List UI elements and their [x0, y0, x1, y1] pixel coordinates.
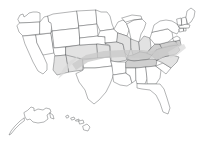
state-nebraska[interactable]	[80, 36, 106, 45]
us-map-figure	[0, 0, 202, 146]
state-connecticut[interactable]	[179, 28, 184, 32]
state-rhode-island[interactable]	[184, 28, 186, 31]
state-arkansas[interactable]	[111, 61, 126, 75]
state-montana[interactable]	[48, 11, 79, 31]
united-states-map	[0, 0, 202, 146]
state-vermont[interactable]	[177, 18, 182, 25]
inset-hawaii-maui[interactable]	[79, 120, 84, 124]
state-south-dakota[interactable]	[79, 24, 98, 38]
state-north-dakota[interactable]	[77, 10, 97, 26]
state-alabama[interactable]	[136, 67, 147, 84]
state-wyoming[interactable]	[52, 28, 80, 48]
